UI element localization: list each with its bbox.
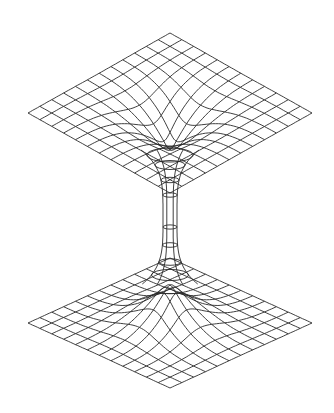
grid-line xyxy=(99,285,241,356)
grid-line xyxy=(99,285,241,356)
grid-line xyxy=(52,46,194,126)
throat-ring xyxy=(162,243,177,248)
grid-line xyxy=(99,73,241,153)
top-funnel-sheet xyxy=(28,33,312,193)
grid-line xyxy=(158,40,300,120)
grid-line xyxy=(146,100,288,180)
grid-line xyxy=(158,318,300,383)
grid-line xyxy=(40,40,182,120)
grid-line xyxy=(64,53,206,133)
grid-line xyxy=(146,46,288,126)
grid-line xyxy=(52,100,194,180)
bottom-funnel-sheet xyxy=(28,258,312,388)
throat-ring xyxy=(163,225,177,229)
wormhole-diagram xyxy=(0,0,334,413)
grid-line xyxy=(99,73,241,153)
throat-ring xyxy=(163,193,178,197)
grid-line xyxy=(40,318,182,383)
grid-line xyxy=(135,53,277,133)
grid-line xyxy=(52,312,194,377)
grid-line xyxy=(146,312,288,377)
grid-line xyxy=(64,307,206,372)
grid-line xyxy=(135,307,277,372)
